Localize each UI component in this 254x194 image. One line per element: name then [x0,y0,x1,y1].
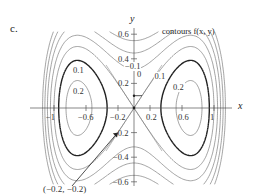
x-tick-label: −0.2 [110,113,125,122]
chart-title: contours f(x, y) [162,27,215,36]
y-tick-label: −0.6 [113,178,128,187]
x-tick-label: 0.6 [178,113,189,122]
x-tick-label: 1 [210,113,214,122]
x-axis-label: x [238,101,242,111]
x-tick-label: 0.2 [146,113,157,122]
panel-label: c. [10,23,18,34]
y-tick-label: −0.2 [113,129,128,138]
point-annotation: (−0.2, −0.2) [43,185,86,194]
y-axis-label: y [130,14,134,24]
contour-value-label: 0 [136,70,142,79]
y-tick-label: 0.2 [118,79,129,88]
y-tick-label: 0.6 [118,30,129,39]
x-tick-label: −1 [46,113,55,122]
contour-value-label: 0.2 [72,87,85,96]
contour-value-label: 0.1 [72,66,85,75]
x-tick-label: −0.6 [78,113,93,122]
contour-value-label: 0.1 [154,72,167,81]
contour-value-label: 0.2 [172,83,185,92]
y-tick-label: −0.4 [113,153,128,162]
